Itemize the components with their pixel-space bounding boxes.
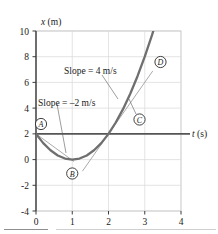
point-marker-c: C [134,114,145,125]
slope-minus-2-annotation: Slope = –2 m/s [38,98,96,108]
y-tick-label: 10 [20,27,30,37]
y-tick-label: 4 [24,104,29,114]
point-marker-a: A [35,118,46,129]
point-marker-d-label: D [157,58,164,67]
chart-svg: x (m) t (s) 10 8 6 4 2 0 -2 -4 0 1 2 3 4… [0,0,218,234]
y-tick-label: 8 [24,52,29,62]
footer-rule-right [56,229,216,230]
point-marker-a-label: A [38,120,44,129]
point-marker-b-label: B [70,170,75,179]
x-tick-label: 4 [179,217,184,227]
x-axis-label: t (s) [192,129,207,140]
x-tick-label: 0 [34,217,39,227]
point-marker-c-label: C [137,116,143,125]
x-tick-label: 3 [142,217,147,227]
footer-rule-left [4,229,48,230]
chart-background [0,0,218,234]
position-time-graph-figure: x (m) t (s) 10 8 6 4 2 0 -2 -4 0 1 2 3 4… [0,0,218,234]
x-tick-label: 2 [106,217,111,227]
point-marker-d: D [155,56,166,67]
y-tick-label: 0 [24,155,29,165]
point-marker-b: B [67,168,78,179]
y-tick-label: -2 [21,181,29,191]
y-tick-label: 2 [24,129,29,139]
y-tick-label: -4 [21,207,29,217]
slope-4-annotation: Slope = 4 m/s [64,66,117,76]
y-tick-label: 6 [24,78,29,88]
x-tick-label: 1 [70,217,75,227]
y-axis-label: x (m) [40,17,61,28]
